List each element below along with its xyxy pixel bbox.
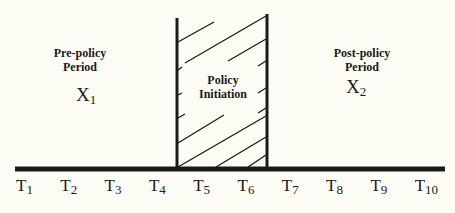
pre-policy-title: Pre-policy [40, 46, 120, 60]
pre-policy-variable: X1 [76, 84, 96, 106]
tick-label: T4 [149, 176, 166, 196]
post-policy-variable: X2 [346, 76, 366, 98]
hatch-line [178, 115, 224, 143]
tick-label: T9 [370, 176, 387, 196]
diagram: Pre-policy Period X1 Policy Initiation P… [0, 0, 455, 213]
tick-label: T2 [60, 176, 77, 196]
hatch-line [248, 155, 266, 167]
hatch-line [216, 137, 266, 167]
policy-subtitle: Initiation [185, 87, 261, 101]
tick-label: T10 [415, 176, 438, 196]
policy-initiation-label: Policy Initiation [185, 73, 261, 101]
tick-label: T5 [193, 176, 210, 196]
pre-policy-subtitle: Period [40, 60, 120, 74]
pre-policy-label: Pre-policy Period [40, 46, 120, 74]
tick-label: T6 [238, 176, 255, 196]
hatch-line [178, 67, 182, 70]
tick-label: T1 [16, 176, 33, 196]
tick-label: T7 [282, 176, 299, 196]
tick-label: T3 [105, 176, 122, 196]
hatch-line [185, 16, 266, 63]
hatch-line [228, 39, 266, 61]
tick-label: T8 [326, 176, 343, 196]
hatch-line [178, 93, 182, 95]
hatch-line [258, 61, 266, 66]
post-policy-label: Post-policy Period [317, 46, 407, 74]
hatch-line [178, 22, 214, 42]
hatch-line [258, 108, 266, 113]
hatch-line [178, 114, 185, 118]
post-policy-subtitle: Period [317, 60, 407, 74]
post-policy-title: Post-policy [317, 46, 407, 60]
policy-title: Policy [185, 73, 261, 87]
hatch-line [178, 116, 266, 167]
